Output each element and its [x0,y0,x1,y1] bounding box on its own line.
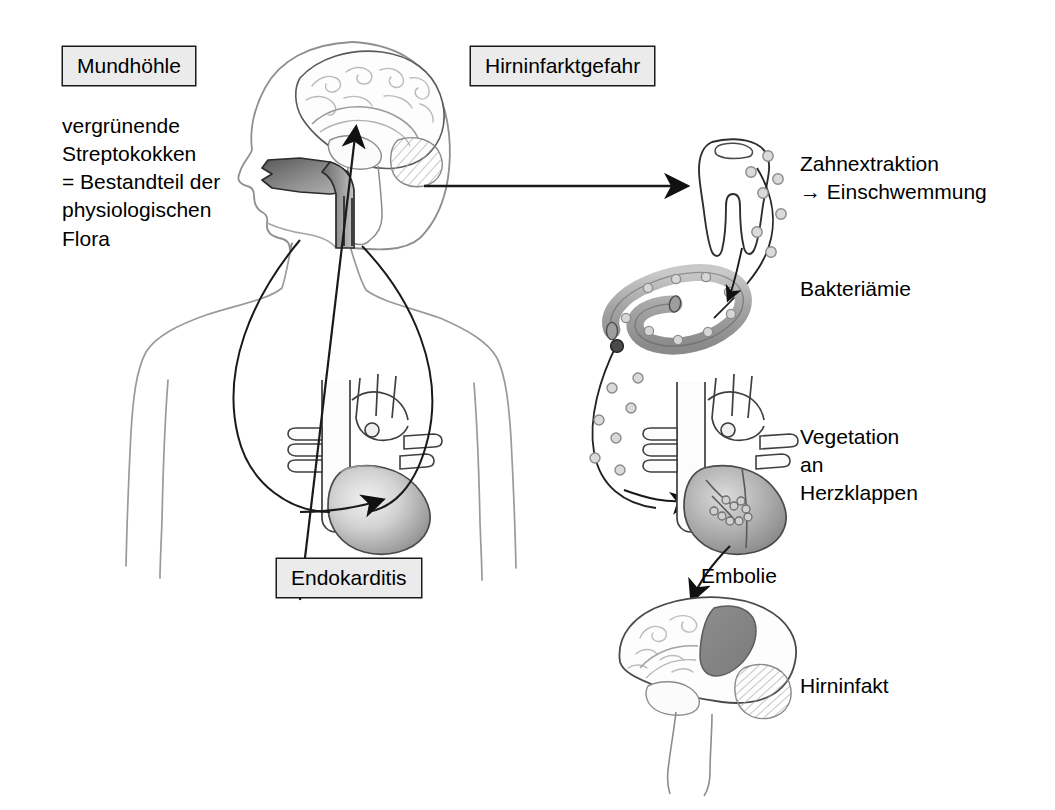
label-box-mundhoehle: Mundhöhle [62,46,196,86]
oral-flora-description: vergrünende Streptokokken = Bestandteil … [62,112,292,253]
body-outline [126,243,516,580]
label-box-endokarditis: Endokarditis [276,558,422,598]
bacteria-trail-heart [592,344,656,508]
label-vegetation-an-herzklappen: Vegetation an Herzklappen [800,423,1030,507]
tooth [699,139,769,256]
bacteria-cluster-heart [590,373,643,475]
figure-canvas: Mundhöhle vergrünende Streptokokken = Be… [0,0,1055,810]
label-zahnextraktion: Zahnextraktion → Einschwemmung [800,150,1050,206]
pharynx-shade [322,162,354,248]
bacteria-embolus [611,340,624,353]
label-hirninfakt: Hirninfakt [800,672,889,700]
brain-infarct [619,597,796,796]
label-bakteriaemie: Bakteriämie [800,275,911,303]
label-box-hirninfarktgefahr: Hirninfarktgefahr [470,46,655,86]
label-embolie: Embolie [701,562,777,590]
heart-right [643,374,798,554]
